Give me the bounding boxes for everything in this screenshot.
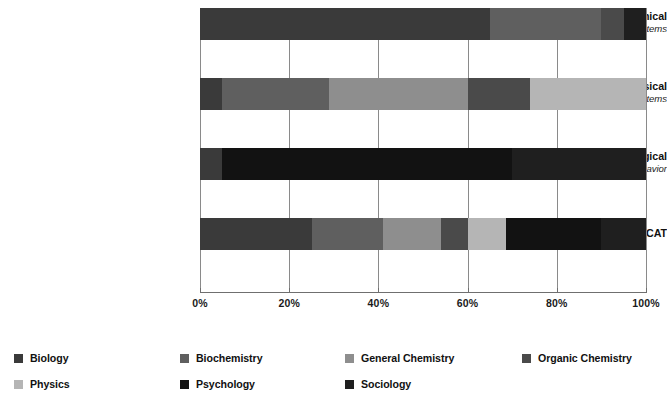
x-tick-label: 0% [192,297,208,309]
legend-label: Psychology [196,378,255,390]
legend-item-biology[interactable]: Biology [14,352,69,364]
bar-segment-general-chemistry [329,78,467,110]
legend-swatch-icon [180,354,189,363]
legend-swatch-icon [345,354,354,363]
bar-segment-sociology [601,218,646,250]
bar-row [200,218,646,250]
bar-segment-general-chemistry [383,218,441,250]
x-tick-label: 40% [368,297,390,309]
x-tick-label: 80% [546,297,568,309]
bar-segment-psychology [222,148,512,180]
x-tick-label: 20% [278,297,300,309]
bar-segment-organic-chemistry [468,78,530,110]
bar-segment-organic-chemistry [601,8,623,40]
bar-segment-organic-chemistry [441,218,468,250]
bar-segment-sociology [624,8,646,40]
legend-item-organic-chemistry[interactable]: Organic Chemistry [522,352,632,364]
legend-swatch-icon [522,354,531,363]
x-tick-mark [200,288,201,293]
bar-row [200,78,646,110]
legend-label: Biology [30,352,69,364]
legend-swatch-icon [14,354,23,363]
bar-segment-sociology [512,148,646,180]
bar-segment-biochemistry [222,78,329,110]
gridline [646,8,647,292]
chart-legend: BiologyBiochemistryGeneral ChemistryOrga… [0,344,667,406]
x-tick-mark [646,288,647,293]
bar-row [200,8,646,40]
bar-segment-biology [200,8,490,40]
bar-row [200,148,646,180]
x-tick-label: 60% [457,297,479,309]
bar-segment-biology [200,148,222,180]
legend-swatch-icon [14,380,23,389]
legend-label: Physics [30,378,70,390]
x-tick-mark [378,288,379,293]
legend-swatch-icon [180,380,189,389]
stacked-bar-chart: Biological and BiochemicalFoundations of… [0,0,667,409]
legend-label: Organic Chemistry [538,352,632,364]
bar-segment-psychology [506,218,602,250]
legend-item-psychology[interactable]: Psychology [180,378,255,390]
legend-item-sociology[interactable]: Sociology [345,378,411,390]
legend-item-physics[interactable]: Physics [14,378,70,390]
x-tick-mark [289,288,290,293]
bar-segment-biology [200,78,222,110]
bar-segment-physics [530,78,646,110]
legend-item-general-chemistry[interactable]: General Chemistry [345,352,454,364]
legend-label: Sociology [361,378,411,390]
bar-segment-biochemistry [312,218,383,250]
bar-segment-biochemistry [490,8,602,40]
legend-label: Biochemistry [196,352,263,364]
legend-swatch-icon [345,380,354,389]
legend-item-biochemistry[interactable]: Biochemistry [180,352,263,364]
plot-area [200,8,646,292]
x-tick-mark [468,288,469,293]
bar-segment-biology [200,218,312,250]
bar-segment-physics [468,218,506,250]
x-tick-mark [557,288,558,293]
x-tick-label: 100% [632,297,660,309]
x-axis-line [200,292,647,293]
legend-label: General Chemistry [361,352,454,364]
